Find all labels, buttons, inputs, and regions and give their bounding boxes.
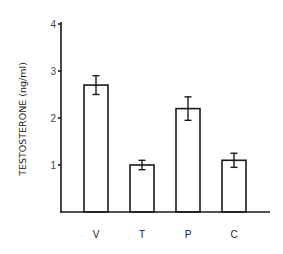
bar-c: [222, 153, 246, 212]
x-category-label: V: [93, 229, 100, 240]
x-category-label: P: [185, 229, 192, 240]
bars: [84, 76, 246, 212]
bar-t: [130, 160, 154, 212]
y-tick-label: 1: [50, 160, 56, 171]
x-category-label: T: [139, 229, 145, 240]
y-tick-label: 2: [50, 113, 56, 124]
y-tick-label: 4: [50, 19, 56, 30]
bar-rect: [222, 160, 246, 212]
y-axis-ticks: 1234: [50, 19, 61, 171]
bar-v: [84, 76, 108, 212]
y-axis-label: TESTOSTERONE (ng/ml): [17, 62, 28, 177]
bar-chart: TESTOSTERONE (ng/ml) 1234 VTPC: [0, 0, 283, 254]
x-category-label: C: [230, 229, 237, 240]
y-axis-label-group: TESTOSTERONE (ng/ml): [17, 62, 28, 177]
bar-p: [176, 97, 200, 212]
bar-rect: [84, 85, 108, 212]
bar-rect: [176, 109, 200, 212]
bar-rect: [130, 165, 154, 212]
y-tick-label: 3: [50, 66, 56, 77]
x-axis-labels: VTPC: [93, 229, 238, 240]
